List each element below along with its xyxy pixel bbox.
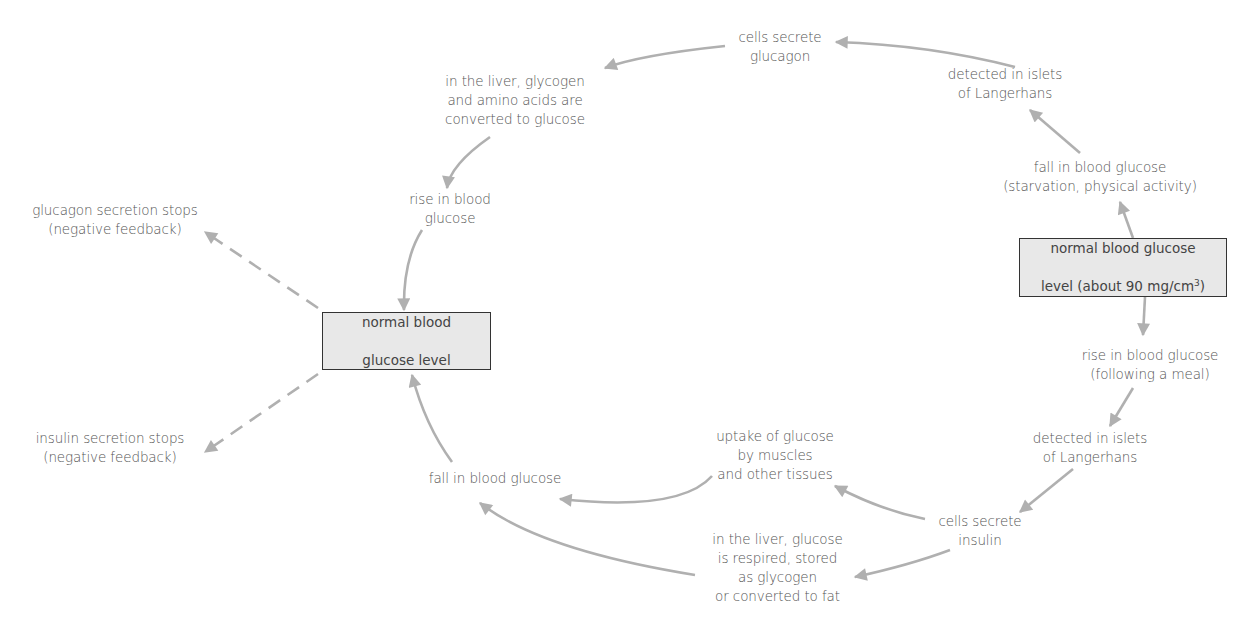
arrow-rise-to-detected bbox=[1110, 388, 1133, 426]
label-fall-blood-glucose-left: fall in blood glucose bbox=[410, 469, 580, 488]
box-left-line2: glucose level bbox=[362, 351, 451, 370]
label-glucagon-secretion-stops: glucagon secretion stops (negative feedb… bbox=[15, 201, 215, 239]
label-insulin-secretion-stops: insulin secretion stops (negative feedba… bbox=[10, 429, 210, 467]
arrow-feedback-insulin-stops bbox=[205, 374, 318, 452]
arrow-detected-to-insulin bbox=[1020, 469, 1073, 512]
label-cells-secrete-insulin: cells secrete insulin bbox=[905, 512, 1055, 550]
arrow-glucagon-to-liver bbox=[605, 46, 725, 68]
label-detected-islets-top: detected in islets of Langerhans bbox=[930, 65, 1080, 103]
label-rise-meal: rise in blood glucose (following a meal) bbox=[1060, 346, 1240, 384]
label-fall-starvation: fall in blood glucose (starvation, physi… bbox=[975, 158, 1225, 196]
arrow-detected-to-glucagon bbox=[836, 42, 1015, 67]
box-right-line2: level (about 90 mg/cm3) bbox=[1041, 277, 1205, 296]
box-right-line2-close: ) bbox=[1200, 278, 1205, 294]
label-detected-islets-bottom: detected in islets of Langerhans bbox=[1010, 429, 1170, 467]
label-liver-glucose-stored: in the liver, glucose is respired, store… bbox=[690, 530, 865, 606]
normal-glucose-box-right: normal blood glucose level (about 90 mg/… bbox=[1019, 238, 1227, 297]
box-right-line2-text: level (about 90 mg/cm bbox=[1041, 278, 1194, 294]
normal-glucose-box-left: normal blood glucose level bbox=[322, 312, 491, 370]
arrow-feedback-glucagon-stops bbox=[205, 232, 318, 308]
label-cells-secrete-glucagon: cells secrete glucagon bbox=[710, 28, 850, 66]
label-rise-blood-glucose-left: rise in blood glucose bbox=[380, 190, 520, 228]
arrow-liver-to-fall bbox=[480, 503, 695, 575]
arrow-fall-to-detected bbox=[1030, 110, 1080, 153]
arrow-insulin-to-liver bbox=[855, 550, 950, 577]
glucose-regulation-diagram: normal blood glucose level normal blood … bbox=[0, 0, 1255, 628]
label-uptake-glucose: uptake of glucose by muscles and other t… bbox=[690, 427, 860, 484]
box-left-line1: normal blood bbox=[362, 313, 451, 332]
label-liver-glycogen: in the liver, glycogen and amino acids a… bbox=[420, 72, 610, 129]
box-right-line1: normal blood glucose bbox=[1041, 239, 1205, 258]
arrow-liver-to-rise bbox=[447, 137, 490, 188]
